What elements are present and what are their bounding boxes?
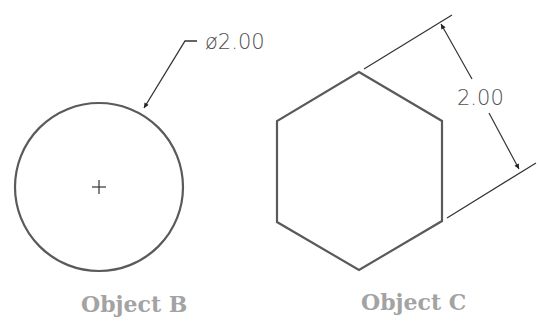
diameter-leader (144, 41, 197, 108)
extension-lines (364, 15, 536, 218)
object-c: 2.00 Object C (277, 15, 536, 315)
diameter-dimension-text: ø2.00 (205, 30, 265, 54)
object-c-label: Object C (361, 289, 466, 315)
hexagon-shape (277, 72, 442, 270)
object-b: ø2.00 Object B (15, 30, 265, 317)
object-b-label: Object B (81, 291, 187, 317)
center-mark-icon (92, 180, 106, 194)
drawing-canvas: ø2.00 Object B 2.00 Object C (0, 0, 539, 326)
across-flats-dimension-text: 2.00 (457, 86, 504, 110)
